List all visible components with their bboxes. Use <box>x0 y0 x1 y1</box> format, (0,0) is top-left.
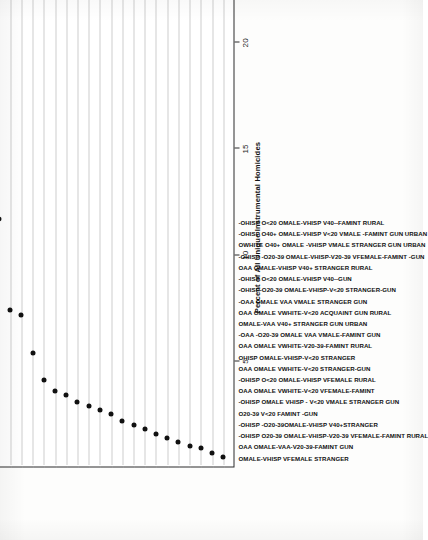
data-point <box>120 418 125 423</box>
category-labels: OMALE-VHISP VFEMALE STRANGEROAA OMALE-VA… <box>237 0 367 468</box>
category-label: OAA OMALE VWHITE-V<20 STRANGER-GUN <box>239 364 371 371</box>
category-label: -OHISP O20-39 OMALE-VHISP-V20-39 VFEMALE… <box>239 432 428 439</box>
category-label: OAA OMALE VWHITE-V<20 ACQUAINT GUN RURAL <box>239 308 392 315</box>
data-point <box>19 312 24 317</box>
category-label: O20-39 V<20 FAMINT -GUN <box>239 409 318 416</box>
row-guide-line <box>190 0 191 468</box>
data-point <box>142 427 147 432</box>
row-guide-line <box>10 0 11 468</box>
category-label: -OHISP O40+ OMALE-VHISP V<20 VMALE -FAMI… <box>239 230 428 237</box>
category-label: OAA OMALE VWHITE-V<20 VFEMALE-FAMINT <box>239 387 375 394</box>
category-label: -OHISP OMALE VHISP - V<20 VMALE STRANGER… <box>239 398 400 405</box>
data-point <box>75 399 80 404</box>
data-point <box>153 431 158 436</box>
data-point <box>109 412 114 417</box>
category-label: -OHISP O<20 OMALE-VHISP V40--GUN <box>239 275 352 282</box>
category-label: -OHISP -O20-39 OMALE-VHISP-V20-39 VFEMAL… <box>239 252 425 259</box>
data-point <box>165 435 170 440</box>
row-guide-line <box>201 0 202 468</box>
row-guide-line <box>145 0 146 468</box>
category-label: OAA OMALE VWHITE-V20-39-FAMINT RURAL <box>239 342 373 349</box>
data-point <box>8 308 13 313</box>
data-point <box>221 454 226 459</box>
rotated-figure-wrapper: 5101520 Percent of All Unique Instrument… <box>0 0 369 482</box>
row-guide-line <box>212 0 213 468</box>
row-guide-line <box>178 0 179 468</box>
row-guide-line <box>77 0 78 468</box>
data-point <box>41 378 46 383</box>
row-guide-line <box>122 0 123 468</box>
data-point <box>176 440 181 445</box>
category-label: -OHISP -O20-39OMALE-VHISP V40+STRANGER <box>239 420 378 427</box>
row-guide-line <box>111 0 112 468</box>
row-guide-line <box>33 0 34 468</box>
category-label: OMALE-VAA V40+ STRANGER GUN URBAN <box>239 319 368 326</box>
row-guide-line <box>167 0 168 468</box>
data-point <box>86 403 91 408</box>
data-point <box>210 450 215 455</box>
dot-plot-figure: 5101520 Percent of All Unique Instrument… <box>0 0 369 482</box>
plot-rows <box>0 0 235 468</box>
data-point <box>131 423 136 428</box>
data-point <box>0 217 1 222</box>
category-label: -OHISP-O20-39 OMALE-VHISP-V<20 STRANGER-… <box>239 286 396 293</box>
data-point <box>97 408 102 413</box>
row-guide-line <box>223 0 224 468</box>
category-label: -OHISP O<20 OMALE-VHISP V40--FAMINT RURA… <box>239 219 385 226</box>
category-label: OAA OMALE-VHISP V40+ STRANGER RURAL <box>239 263 373 270</box>
data-point <box>198 446 203 451</box>
row-guide-line <box>156 0 157 468</box>
category-label: OAA OMALE-VAA-V20-39-FAMINT GUN <box>239 443 354 450</box>
category-label: -OAA OMALE VAA VMALE STRANGER GUN <box>239 297 368 304</box>
row-guide-line <box>44 0 45 468</box>
category-label: -OHISP O<20 OMALE-VHISP VFEMALE RURAL <box>239 376 376 383</box>
category-label: OMALE-VHISP VFEMALE STRANGER <box>239 454 349 461</box>
row-guide-line <box>100 0 101 468</box>
data-point <box>30 350 35 355</box>
data-point <box>64 393 69 398</box>
row-guide-line <box>55 0 56 468</box>
row-guide-line <box>21 0 22 468</box>
data-point <box>187 444 192 449</box>
row-guide-line <box>89 0 90 468</box>
category-label: OWHITE O40+ OMALE -VHISP VMALE STRANGER … <box>239 241 426 248</box>
category-label: OHISP OMALE-VHISP-V<20 STRANGER <box>239 353 356 360</box>
category-label: -OAA -O20-39 OMALE VAA VMALE-FAMINT GUN <box>239 331 381 338</box>
data-point <box>53 389 58 394</box>
row-guide-line <box>134 0 135 468</box>
